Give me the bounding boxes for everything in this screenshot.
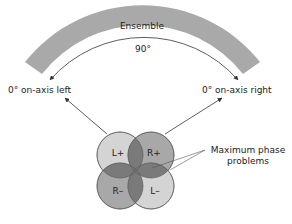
angle-label: 90° (135, 44, 151, 54)
label-r-minus: R– (113, 186, 124, 196)
left-axis-label: 0° on-axis left (8, 85, 71, 95)
arrow-to-left (65, 98, 107, 134)
right-axis-label: 0° on-axis right (202, 85, 272, 95)
label-l-minus: L– (150, 186, 160, 196)
stereo-phase-diagram: Ensemble 90° 0° on-axis left 0° on-axis … (0, 0, 292, 224)
annotation-line-1: Maximum phase (211, 145, 286, 155)
annotation-line-2: problems (227, 156, 269, 166)
ensemble-band (25, 5, 260, 74)
arrow-to-right (165, 98, 222, 134)
ensemble-label: Ensemble (120, 21, 165, 31)
label-r-plus: R+ (147, 148, 161, 158)
label-l-plus: L+ (112, 148, 125, 158)
